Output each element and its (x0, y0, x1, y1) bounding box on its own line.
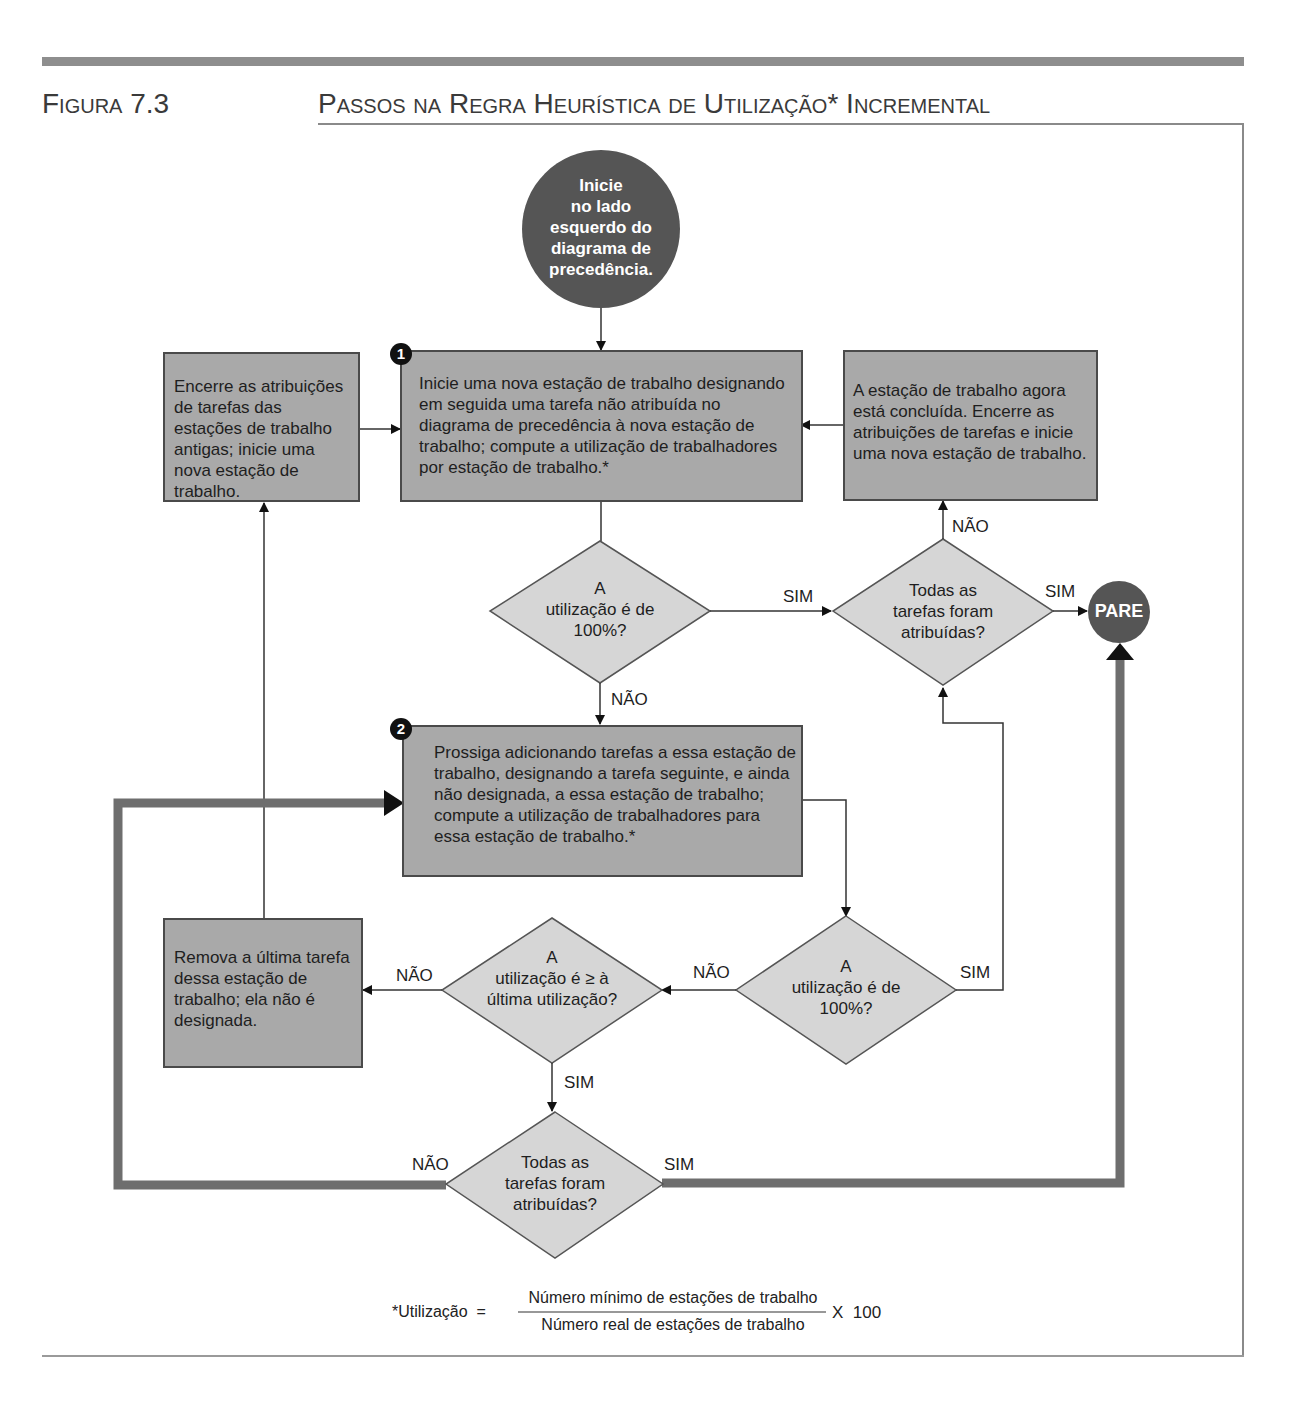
formula-numerator: Número mínimo de estações de trabalho (520, 1289, 826, 1307)
step1-badge: 1 (390, 343, 412, 365)
label-nao-1: NÃO (952, 517, 989, 537)
decision-all-assigned-top-text: Todas as tarefas foram atribuídas? (873, 580, 1013, 643)
formula-multiplier: X 100 (832, 1303, 881, 1323)
decision-util-100-bottom-text: A utilização é de 100%? (776, 956, 916, 1019)
label-sim-2: SIM (1045, 582, 1075, 602)
decision-all-assigned-bottom-text: Todas as tarefas foram atribuídas? (485, 1152, 625, 1215)
stop-node-text: PARE (1088, 601, 1150, 622)
label-sim-4: SIM (564, 1073, 594, 1093)
label-sim-3: SIM (960, 963, 990, 983)
remove-last-task-text: Remova a última tarefa dessa estação de … (174, 947, 359, 1031)
station-done-box: A estação de trabalho agora está concluí… (843, 350, 1098, 501)
close-old-stations-box: Encerre as atribuições de tarefas das es… (163, 352, 360, 502)
label-sim-5: SIM (664, 1155, 694, 1175)
close-old-stations-text: Encerre as atribuições de tarefas das es… (174, 376, 354, 502)
step2-box: Prossiga adicionando tarefas a essa esta… (402, 725, 803, 877)
remove-last-task-box: Remova a última tarefa dessa estação de … (163, 918, 363, 1068)
label-nao-2: NÃO (611, 690, 648, 710)
step1-text: Inicie uma nova estação de trabalho desi… (419, 373, 794, 478)
station-done-text: A estação de trabalho agora está concluí… (853, 380, 1093, 464)
formula-denominator: Número real de estações de trabalho (520, 1316, 826, 1334)
step2-badge: 2 (390, 718, 412, 740)
label-nao-3: NÃO (693, 963, 730, 983)
step2-text: Prossiga adicionando tarefas a essa esta… (434, 742, 799, 847)
step1-box: Inicie uma nova estação de trabalho desi… (400, 350, 803, 502)
label-nao-5: NÃO (412, 1155, 449, 1175)
decision-util-ge-last-text: A utilização é ≥ à última utilização? (472, 947, 632, 1010)
decision-util-100-top-text: A utilização é de 100%? (530, 578, 670, 641)
label-sim-1: SIM (783, 587, 813, 607)
label-nao-4: NÃO (396, 966, 433, 986)
start-node-text: Inicie no lado esquerdo do diagrama de p… (526, 175, 676, 280)
formula-lhs: *Utilização = (392, 1303, 486, 1321)
